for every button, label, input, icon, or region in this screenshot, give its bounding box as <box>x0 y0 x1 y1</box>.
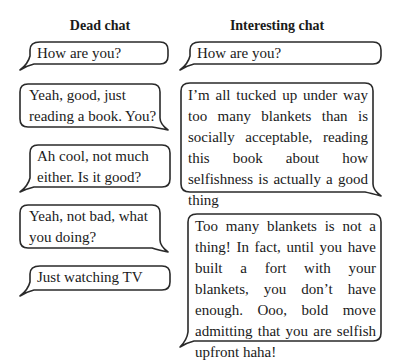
dead-msg-5: Just watching TV <box>37 267 165 288</box>
interesting-msg-2: I’m all tucked up under way too many bla… <box>188 85 368 211</box>
dead-msg-4: Yeah, not bad, what you doing? <box>29 206 157 248</box>
interesting-msg-3: Too many blankets is not a thing! In fac… <box>195 216 376 363</box>
dead-msg-1: How are you? <box>37 43 165 64</box>
dead-msg-3: Ah cool, not much either. Is it good? <box>37 146 165 188</box>
dead-msg-2: Yeah, good, just reading a book. You? <box>29 85 159 127</box>
interesting-msg-1: How are you? <box>197 43 367 64</box>
